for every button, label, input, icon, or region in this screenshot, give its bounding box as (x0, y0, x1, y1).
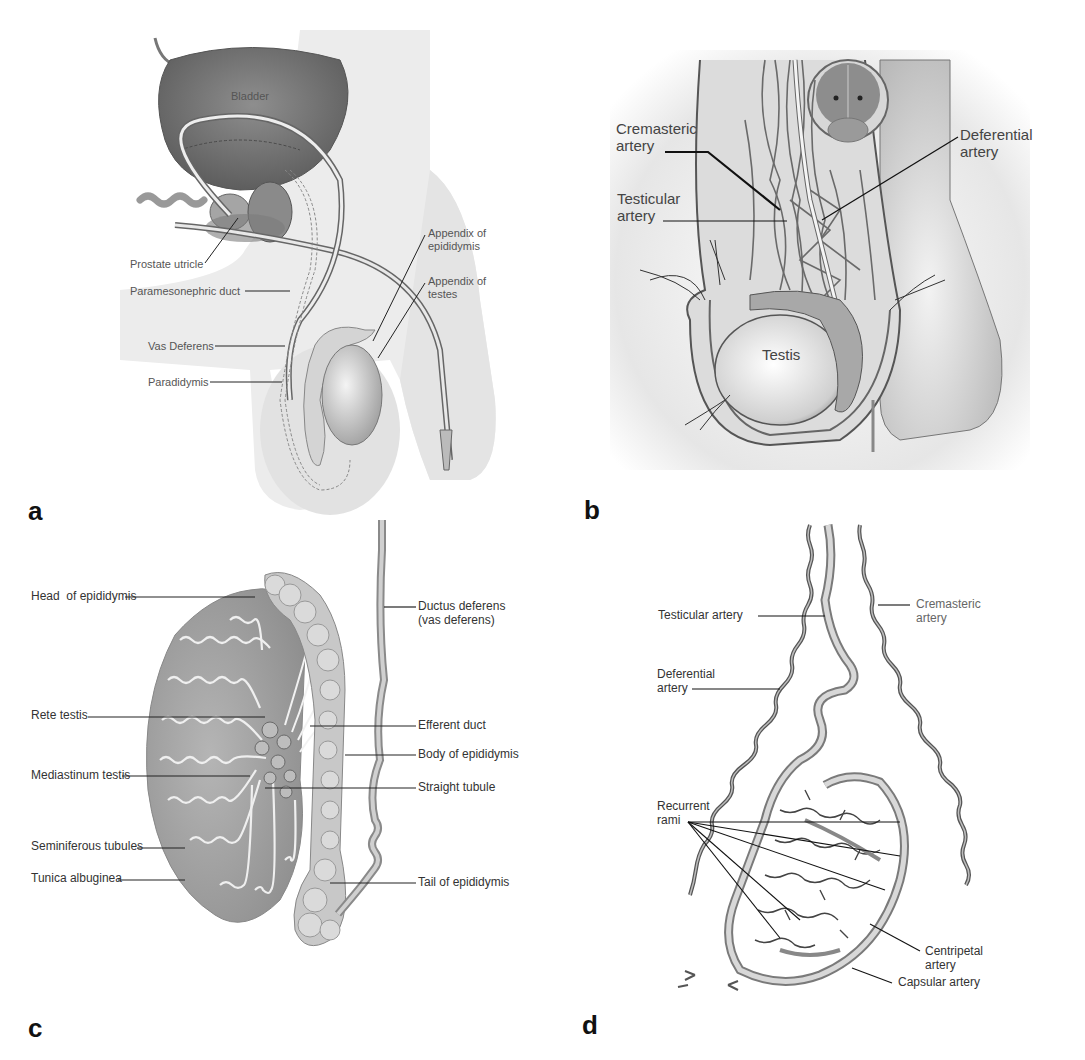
label-efferent-duct: Efferent duct (418, 719, 486, 733)
panel-b-illustration (540, 0, 1085, 520)
label-cremasteric-artery: Cremasteric artery (916, 598, 981, 626)
label-ductus-deferens: Ductus deferens (vas deferens) (418, 600, 505, 628)
label-rete-testis: Rete testis (31, 709, 88, 723)
label-vas-deferens: Vas Deferens (148, 340, 214, 353)
panel-d-illustration (580, 520, 1085, 1060)
panel-b: Cremasteric artery Testicular artery Def… (540, 0, 1085, 520)
label-testicular-artery: Testicular artery (617, 190, 680, 225)
label-head-of-epididymis: Head of epididymis (31, 590, 136, 604)
label-seminiferous-tubules: Seminiferous tubules (31, 840, 143, 854)
panel-d: Testicular artery Cremasteric artery Def… (580, 520, 1085, 1060)
label-straight-tubule: Straight tubule (418, 781, 495, 795)
label-centripetal-artery: Centripetal artery (925, 945, 983, 973)
label-cremasteric-artery: Cremasteric artery (616, 120, 697, 155)
label-tunica-albuginea: Tunica albuginea (31, 872, 122, 886)
panel-letter-d: d (582, 1010, 598, 1041)
label-body-of-epididymis: Body of epididymis (418, 748, 519, 762)
label-appendix-epididymis: Appendix of epididymis (428, 227, 486, 252)
label-testis: Testis (762, 346, 800, 363)
label-capsular-artery: Capsular artery (898, 976, 980, 990)
panel-a: Bladder Prostate utricle Paramesonephric… (0, 0, 540, 520)
label-prostate-utricle: Prostate utricle (130, 258, 203, 271)
label-paradidymis: Paradidymis (148, 376, 209, 389)
label-tail-of-epididymis: Tail of epididymis (418, 876, 509, 890)
label-recurrent-rami: Recurrent rami (657, 800, 710, 828)
panel-c: Head of epididymis Rete testis Mediastin… (0, 520, 580, 1060)
label-testicular-artery: Testicular artery (658, 609, 743, 623)
label-paramesonephric-duct: Paramesonephric duct (130, 285, 240, 298)
label-mediastinum-testis: Mediastinum testis (31, 769, 130, 783)
label-deferential-artery: Deferential artery (657, 668, 715, 696)
panel-a-illustration (0, 0, 540, 520)
label-bladder: Bladder (231, 90, 269, 103)
label-appendix-testes: Appendix of testes (428, 275, 486, 300)
panel-letter-c: c (28, 1013, 42, 1044)
label-deferential-artery: Deferential artery (960, 126, 1033, 161)
